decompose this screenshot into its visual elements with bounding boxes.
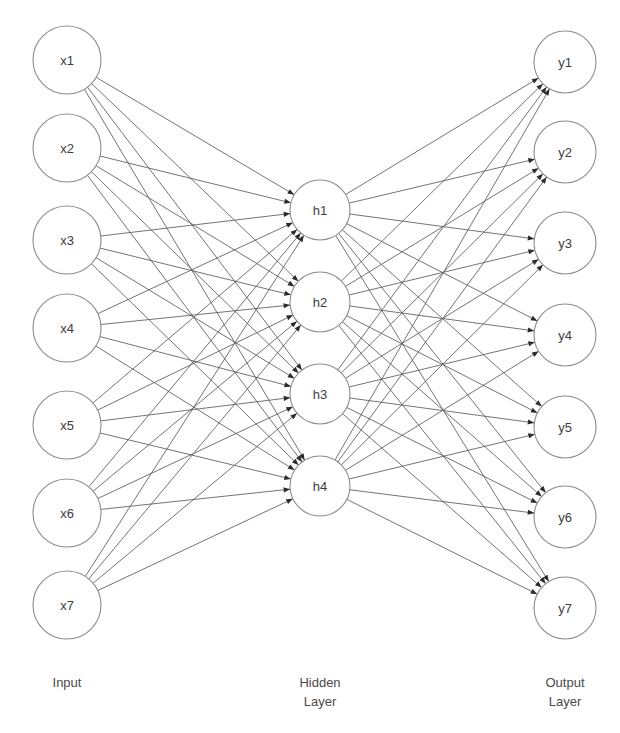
edge-x7-to-h1 — [85, 235, 303, 576]
node-label-h1: h1 — [313, 203, 327, 218]
node-label-h4: h4 — [313, 479, 327, 494]
node-h3[interactable]: h3 — [290, 364, 350, 424]
node-label-x6: x6 — [60, 506, 74, 521]
edge-x5-to-h3 — [101, 398, 290, 421]
node-label-x2: x2 — [60, 141, 74, 156]
edge-x6-to-h3 — [98, 407, 293, 499]
edge-h1-to-y2 — [349, 159, 535, 203]
layer-caption-group: InputHiddenLayerOutputLayer — [53, 675, 585, 709]
edge-h4-to-y6 — [350, 490, 534, 513]
edge-h4-to-y5 — [349, 434, 535, 479]
edge-x3-to-h1 — [101, 214, 290, 236]
edge-h1-to-y3 — [350, 214, 535, 239]
edge-h2-to-y3 — [349, 250, 535, 295]
node-label-y1: y1 — [558, 55, 572, 70]
node-label-h2: h2 — [313, 295, 327, 310]
arrowhead-group — [283, 78, 549, 594]
edge-h3-to-y6 — [347, 407, 537, 503]
node-label-x5: x5 — [60, 418, 74, 433]
node-y7[interactable]: y7 — [534, 577, 596, 639]
node-label-y3: y3 — [558, 236, 572, 251]
node-group-input: x1x2x3x4x5x6x7 — [33, 26, 101, 639]
node-y2[interactable]: y2 — [534, 121, 596, 183]
edge-h4-to-y7 — [347, 499, 537, 594]
node-label-x4: x4 — [60, 321, 74, 336]
node-y6[interactable]: y6 — [534, 486, 596, 548]
node-x5[interactable]: x5 — [33, 391, 101, 459]
edge-x6-to-h4 — [101, 489, 290, 509]
node-label-x1: x1 — [60, 53, 74, 68]
node-label-x7: x7 — [60, 598, 74, 613]
edge-h4-to-y2 — [338, 177, 547, 462]
node-x3[interactable]: x3 — [33, 206, 101, 274]
edge-h3-to-y2 — [341, 174, 543, 373]
edge-x4-to-h3 — [100, 337, 291, 387]
node-label-y6: y6 — [558, 510, 572, 525]
edge-x7-to-h4 — [98, 499, 293, 591]
node-y5[interactable]: y5 — [534, 396, 596, 458]
edge-x4-to-h2 — [101, 305, 290, 324]
edge-x5-to-h1 — [93, 229, 297, 403]
node-x7[interactable]: x7 — [33, 571, 101, 639]
edge-x6-to-h2 — [93, 321, 297, 491]
layer-caption-input: Input — [53, 675, 82, 690]
edge-x2-to-h1 — [100, 156, 291, 203]
edge-x5-to-h2 — [98, 315, 293, 410]
edge-h3-to-y3 — [346, 259, 539, 378]
node-group-output: y1y2y3y4y5y6y7 — [534, 31, 596, 639]
node-h1[interactable]: h1 — [290, 180, 350, 240]
edge-x1-to-h2 — [92, 84, 299, 282]
edge-h4-to-y3 — [341, 265, 543, 465]
layer-caption-hidden: HiddenLayer — [299, 675, 340, 709]
edge-x1-to-h4 — [84, 89, 304, 460]
edge-x1-to-h1 — [96, 77, 294, 194]
network-canvas: x1x2x3x4x5x6x7 h1h2h3h4 y1y2y3y4y5y6y7 I… — [0, 0, 620, 733]
edge-h2-to-y1 — [341, 84, 542, 281]
edge-x1-to-h3 — [88, 87, 302, 370]
edge-x4-to-h1 — [98, 223, 293, 314]
edge-h4-to-y1 — [335, 89, 549, 460]
edge-x5-to-h4 — [100, 433, 291, 479]
node-label-y7: y7 — [558, 601, 572, 616]
edge-h3-to-y1 — [338, 87, 547, 370]
node-x1[interactable]: x1 — [33, 26, 101, 94]
neural-network-diagram: x1x2x3x4x5x6x7 h1h2h3h4 y1y2y3y4y5y6y7 I… — [0, 0, 620, 733]
node-label-y4: y4 — [558, 328, 572, 343]
node-x6[interactable]: x6 — [33, 479, 101, 547]
edge-h1-to-y1 — [346, 78, 539, 194]
node-y4[interactable]: y4 — [534, 304, 596, 366]
node-label-y2: y2 — [558, 145, 572, 160]
node-y1[interactable]: y1 — [534, 31, 596, 93]
node-x4[interactable]: x4 — [33, 294, 101, 362]
node-label-x3: x3 — [60, 233, 74, 248]
node-x2[interactable]: x2 — [33, 114, 101, 182]
edge-group-input-to-hidden — [84, 77, 304, 590]
layer-caption-output: OutputLayer — [545, 675, 584, 709]
edge-h1-to-y7 — [336, 236, 549, 582]
node-h2[interactable]: h2 — [290, 272, 350, 332]
edge-h4-to-y4 — [346, 351, 539, 470]
node-h4[interactable]: h4 — [290, 456, 350, 516]
node-label-y5: y5 — [558, 420, 572, 435]
node-y3[interactable]: y3 — [534, 212, 596, 274]
edge-group-hidden-to-output — [335, 78, 549, 594]
edge-x3-to-h2 — [100, 248, 291, 295]
node-label-h3: h3 — [313, 387, 327, 402]
node-group-hidden: h1h2h3h4 — [290, 180, 350, 516]
